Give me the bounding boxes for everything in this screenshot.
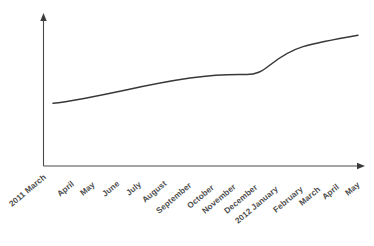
x-tick-label: May <box>344 180 362 198</box>
data-series-line <box>53 35 358 103</box>
x-axis-arrowhead-icon <box>357 163 365 169</box>
x-tick-label: May <box>79 180 97 198</box>
x-tick-label: April <box>56 179 76 198</box>
chart-plot-area: 2011 March April May June July August Se… <box>0 0 374 246</box>
x-axis-tick-labels: 2011 March April May June July August Se… <box>8 173 362 226</box>
line-chart: 2011 March April May June July August Se… <box>0 0 374 246</box>
x-tick-label: April <box>321 182 341 201</box>
y-axis-arrowhead-icon <box>40 13 46 21</box>
x-tick-label: June <box>101 179 122 199</box>
x-tick-label: 2011 March <box>8 173 48 209</box>
x-tick-label: July <box>125 180 144 198</box>
